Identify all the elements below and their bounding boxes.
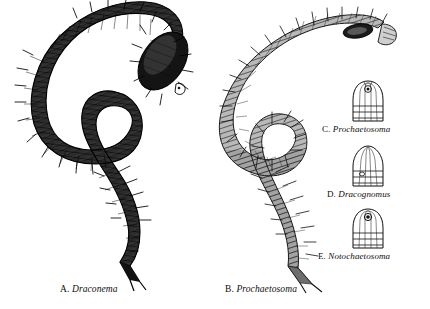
caption-b-letter: B.: [225, 284, 234, 294]
caption-c: C. Prochaetosoma: [322, 124, 390, 134]
caption-a: A. Draconema: [60, 284, 118, 294]
caption-b: B. Prochaetosoma: [225, 284, 297, 294]
caption-b-genus: Prochaetosoma: [236, 284, 297, 294]
caption-e-genus: Notochaetosoma: [328, 251, 390, 261]
inset-d-dracognomus-head: [353, 146, 383, 186]
illustration-canvas: [0, 0, 430, 309]
caption-c-letter: C.: [322, 124, 330, 134]
inset-c-prochaetosoma-head: [353, 81, 383, 121]
caption-d: D. Dracognomus: [327, 189, 390, 199]
caption-e-letter: E.: [318, 251, 326, 261]
caption-a-genus: Draconema: [72, 284, 118, 294]
figure-plate: A. Draconema B. Prochaetosoma C. Prochae…: [0, 0, 430, 309]
inset-e-notochaetosoma-head: [353, 209, 383, 248]
tail-a: [120, 262, 146, 291]
specimen-a-draconema: [15, 0, 200, 291]
caption-c-genus: Prochaetosoma: [333, 124, 390, 134]
caption-d-letter: D.: [327, 189, 336, 199]
head-capsule-b: [342, 22, 396, 45]
caption-a-letter: A.: [60, 284, 69, 294]
head-capsule-a: [128, 23, 199, 100]
caption-e: E. Notochaetosoma: [318, 251, 390, 261]
caption-d-genus: Dracognomus: [338, 189, 390, 199]
